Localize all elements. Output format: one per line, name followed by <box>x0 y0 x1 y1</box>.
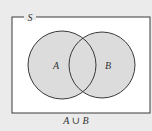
set-a-label: A <box>52 60 60 71</box>
universe-label: S <box>28 12 33 23</box>
venn-diagram: S A B <box>0 0 152 131</box>
diagram-caption: A ∪ B <box>0 115 152 126</box>
set-b-label: B <box>105 60 111 71</box>
